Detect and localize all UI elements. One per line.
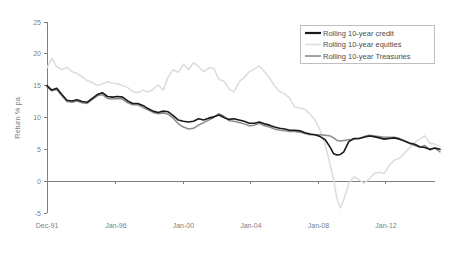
x-tick-label: Jan-00	[173, 222, 195, 229]
series-line-rolling-10-year-equities	[47, 58, 440, 208]
legend-label: Rolling 10-year credit	[323, 29, 395, 38]
y-tick-label: 25	[33, 19, 41, 26]
legend-label: Rolling 10-year equities	[323, 40, 402, 49]
series-line-rolling-10-year-treasuries	[47, 87, 440, 152]
chart-legend: Rolling 10-year creditRolling 10-year eq…	[300, 25, 434, 63]
series-line-rolling-10-year-credit	[47, 86, 440, 155]
y-axis: -50510152025	[33, 19, 47, 217]
y-tick-label: 10	[33, 114, 41, 121]
y-tick-label: 15	[33, 82, 41, 89]
chart-container: -50510152025 Dec-91Jan-96Jan-00Jan-04Jan…	[0, 0, 459, 256]
x-tick-label: Jan-08	[308, 222, 330, 229]
y-tick-label: 5	[37, 146, 41, 153]
y-tick-label: 0	[37, 178, 41, 185]
zero-reference-line	[47, 181, 435, 184]
y-axis-title-text: Return % pa	[13, 96, 22, 139]
y-tick-label: 20	[33, 50, 41, 57]
y-tick-label: -5	[35, 210, 41, 217]
x-tick-label: Jan-04	[240, 222, 262, 229]
x-tick-label: Jan-12	[375, 222, 397, 229]
series-lines	[47, 58, 440, 208]
y-axis-title: Return % pa	[13, 96, 22, 139]
rolling-returns-line-chart: -50510152025 Dec-91Jan-96Jan-00Jan-04Jan…	[0, 0, 459, 256]
legend-label: Rolling 10-year Treasuries	[323, 52, 411, 61]
x-tick-label: Dec-91	[36, 222, 59, 229]
x-axis: Dec-91Jan-96Jan-00Jan-04Jan-08Jan-12	[36, 222, 397, 229]
x-tick-label: Jan-96	[105, 222, 127, 229]
